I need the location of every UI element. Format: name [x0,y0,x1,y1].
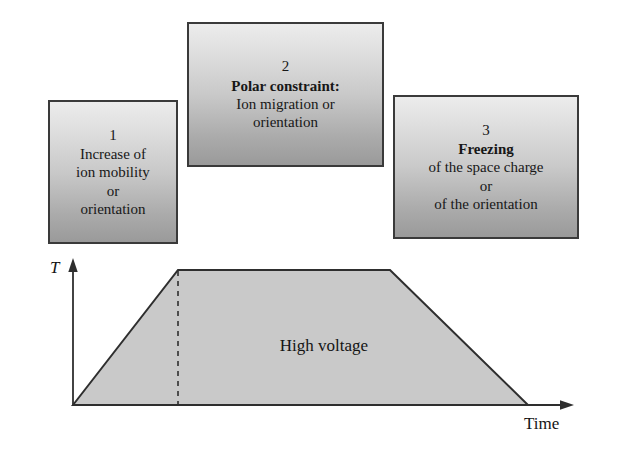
step-box-2-line-2: Ion migration or [236,95,334,113]
step-box-2-line-1: Polar constraint: [231,77,339,95]
step-box-3-line-2: of the space charge [428,158,543,176]
high-voltage-annotation: High voltage [262,336,386,356]
step-box-2: 2 Polar constraint: Ion migration or ori… [187,22,384,167]
step-box-3-line-1: Freezing [458,140,514,158]
y-axis-arrow-icon [68,258,77,272]
y-axis-label: T [50,258,59,278]
step-box-3-line-3: or [480,177,493,195]
x-axis-arrow-icon [560,400,574,409]
step-box-3: 3 Freezing of the space charge or of the… [393,95,579,239]
step-box-2-line-3: orientation [253,113,318,131]
step-box-1-line-1: Increase of [80,145,146,163]
step-box-1-line-2: ion mobility [76,163,150,181]
step-box-1-number: 1 [109,126,117,144]
step-box-1-line-3: or [107,182,120,200]
diagram-canvas: 1 Increase of ion mobility or orientatio… [0,0,621,455]
step-box-3-line-4: of the orientation [434,195,537,213]
step-box-1: 1 Increase of ion mobility or orientatio… [48,100,178,244]
step-box-3-number: 3 [482,121,490,139]
step-box-1-line-4: orientation [81,200,146,218]
step-box-2-number: 2 [282,57,290,75]
x-axis-label: Time [524,414,559,434]
